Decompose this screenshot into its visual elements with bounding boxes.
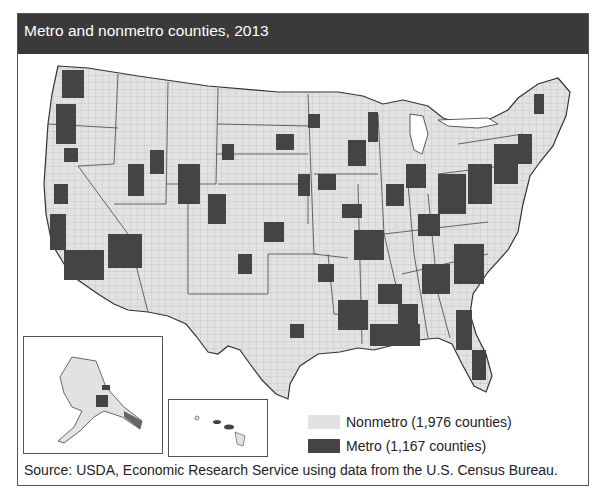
legend-item-nonmetro: Nonmetro (1,976 counties) [308,410,512,434]
legend-item-metro: Metro (1,167 counties) [308,434,512,458]
map-legend: Nonmetro (1,976 counties) Metro (1,167 c… [308,410,512,458]
alaska-inset [23,336,163,454]
alaska-map [24,337,162,453]
legend-label: Nonmetro (1,976 counties) [346,414,512,430]
figure-frame: Metro and nonmetro counties, 2013 [17,13,589,486]
hawaii-map [169,400,267,456]
nonmetro-swatch [308,415,340,429]
figure-title: Metro and nonmetro counties, 2013 [24,22,269,40]
hawaii-inset [168,399,268,457]
source-note: Source: USDA, Economic Research Service … [24,462,558,478]
title-bar: Metro and nonmetro counties, 2013 [18,14,588,54]
metro-swatch [308,439,340,453]
legend-label: Metro (1,167 counties) [346,438,486,454]
